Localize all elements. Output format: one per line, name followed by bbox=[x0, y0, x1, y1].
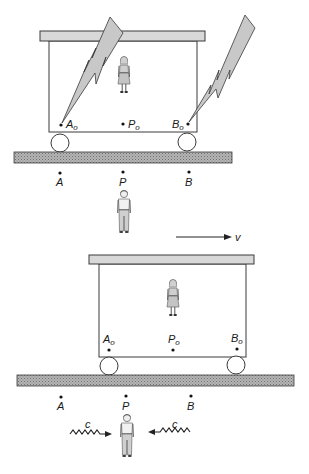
point-b0-dot bbox=[186, 122, 189, 125]
velocity-arrow: v bbox=[176, 231, 242, 243]
man-observer-on-ground-icon bbox=[121, 414, 134, 457]
ground-point-b-dot bbox=[187, 170, 190, 173]
ground-point-p-dot bbox=[124, 394, 127, 397]
bottom-car-wheel-left bbox=[100, 357, 118, 375]
arrow-right-icon bbox=[224, 234, 232, 240]
ground-point-a-label: A bbox=[56, 400, 64, 412]
arrow-left-icon bbox=[148, 429, 155, 435]
top-car-wheel-right bbox=[178, 133, 196, 151]
ground-point-a-dot bbox=[59, 395, 62, 398]
point-a0-dot bbox=[107, 348, 110, 351]
wavy-light-ray-icon bbox=[70, 430, 105, 434]
ground-point-p-label: P bbox=[119, 176, 127, 188]
bottom-car-roof bbox=[89, 255, 254, 264]
top-car-wheel-left bbox=[51, 134, 69, 152]
ground-point-p-label: P bbox=[122, 400, 130, 412]
relativity-diagram: Ao Po Bo A P B v Ao Po Bo bbox=[0, 0, 309, 474]
ground-point-b-label: B bbox=[187, 400, 194, 412]
bottom-ground-track bbox=[17, 375, 294, 386]
ground-point-a-label: A bbox=[55, 176, 63, 188]
point-a0-dot bbox=[59, 123, 62, 126]
light-signal-right: c bbox=[148, 418, 190, 435]
top-ground-track bbox=[14, 152, 232, 163]
point-p0-dot bbox=[121, 122, 124, 125]
man-observer-on-ground-icon bbox=[118, 190, 131, 233]
point-p0-dot bbox=[171, 348, 174, 351]
light-speed-label-left: c bbox=[85, 418, 91, 430]
top-panel: Ao Po Bo A P B bbox=[14, 15, 255, 233]
ground-point-b-dot bbox=[189, 394, 192, 397]
bottom-car-wheel-right bbox=[227, 356, 245, 374]
bottom-panel: Ao Po Bo A P B c c bbox=[17, 255, 294, 457]
velocity-label: v bbox=[235, 231, 242, 243]
ground-point-p-dot bbox=[121, 170, 124, 173]
arrow-right-icon bbox=[105, 431, 112, 437]
light-speed-label-right: c bbox=[172, 418, 178, 430]
ground-point-b-label: B bbox=[185, 176, 192, 188]
ground-point-a-dot bbox=[58, 171, 61, 174]
point-b0-dot bbox=[235, 347, 238, 350]
light-signal-left: c bbox=[70, 418, 112, 437]
